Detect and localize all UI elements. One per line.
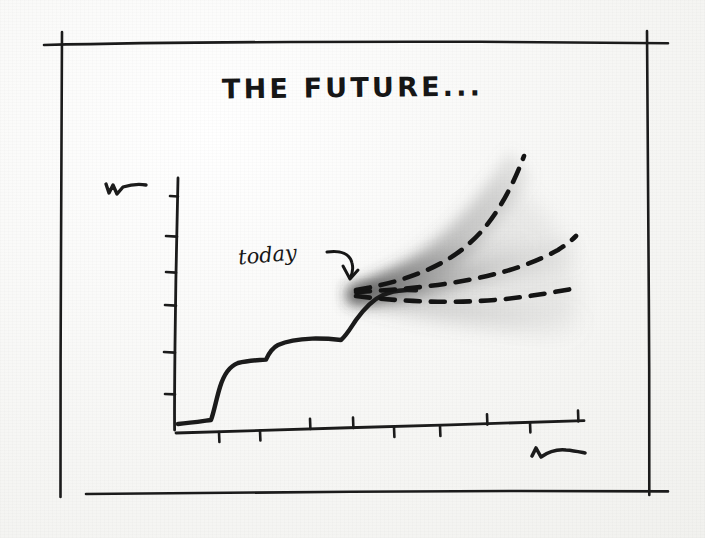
history-series-line: [178, 290, 416, 424]
y-axis-line: [175, 178, 178, 430]
y-axis-tick: [166, 236, 177, 237]
today-annotation-label: today: [237, 240, 298, 269]
y-axis-tick: [165, 305, 176, 306]
today-arrow-head: [343, 266, 358, 279]
frame-bottom-edge: [86, 491, 668, 494]
x-axis-label-squiggle: [532, 448, 585, 457]
history-curve: [178, 290, 416, 424]
y-axis-tick: [170, 196, 178, 197]
y-axis-tick: [164, 352, 175, 353]
x-axis-line: [176, 421, 584, 433]
frame-top-edge: [44, 42, 668, 45]
sketch-chart-canvas: THE FUTURE... today: [0, 0, 705, 538]
today-annotation-arrow: [327, 251, 358, 279]
uncertainty-cone: [347, 152, 582, 336]
y-axis-tick: [166, 272, 176, 273]
y-axis-label-squiggle: [106, 184, 146, 194]
frame-right-edge: [647, 31, 649, 495]
